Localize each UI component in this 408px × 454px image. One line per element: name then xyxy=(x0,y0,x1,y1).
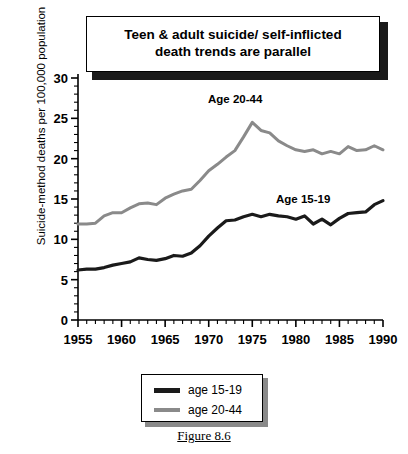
y-axis-tick-15: 15 xyxy=(42,192,68,207)
y-axis-label: Suicide-method deaths per 100,000 popula… xyxy=(35,0,47,261)
plot-area: Suicide-method deaths per 100,000 popula… xyxy=(0,0,408,360)
x-axis-tick-1990: 1990 xyxy=(361,332,405,347)
y-axis-tick-10: 10 xyxy=(42,232,68,247)
x-axis-tick-1980: 1980 xyxy=(274,332,318,347)
y-axis-tick-20: 20 xyxy=(42,151,68,166)
chart-svg xyxy=(0,0,408,360)
x-axis-tick-1970: 1970 xyxy=(187,332,231,347)
figure-caption: Figure 8.6 xyxy=(0,428,408,444)
y-axis-tick-25: 25 xyxy=(42,111,68,126)
legend-label: age 15-19 xyxy=(188,383,242,397)
x-axis-tick-1955: 1955 xyxy=(56,332,100,347)
x-axis-tick-1965: 1965 xyxy=(143,332,187,347)
y-axis-tick-0: 0 xyxy=(42,313,68,328)
x-axis-tick-1960: 1960 xyxy=(100,332,144,347)
figure-caption-text: Figure 8.6 xyxy=(177,428,230,443)
x-axis-tick-1985: 1985 xyxy=(317,332,361,347)
series-annotation-age-20-44: Age 20-44 xyxy=(208,93,262,105)
legend-box: age 15-19age 20-44 xyxy=(141,374,263,422)
legend-item-age-20-44[interactable]: age 20-44 xyxy=(154,401,262,419)
y-axis-tick-30: 30 xyxy=(42,71,68,86)
legend-swatch-icon xyxy=(154,388,180,393)
y-axis-tick-5: 5 xyxy=(42,272,68,287)
figure-container: Teen & adult suicide/ self-inflicted dea… xyxy=(0,0,408,454)
series-annotation-age-15-19: Age 15-19 xyxy=(276,193,330,205)
legend-swatch-icon xyxy=(154,408,180,412)
legend-label: age 20-44 xyxy=(188,403,242,417)
x-axis-tick-1975: 1975 xyxy=(230,332,274,347)
legend-item-age-15-19[interactable]: age 15-19 xyxy=(154,381,262,399)
